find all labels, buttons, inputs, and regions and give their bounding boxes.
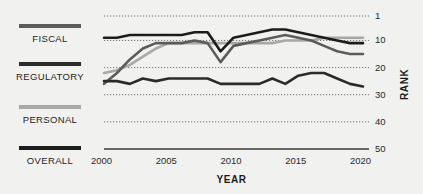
- y-tick-label-1: 1: [375, 10, 380, 21]
- legend-label-regulatory: REGULATORY: [0, 71, 100, 82]
- chart-figure: FISCAL REGULATORY PERSONAL OVERALL 1 10 …: [0, 0, 423, 194]
- x-tick-label-2000: 2000: [91, 155, 112, 166]
- y-tick-label-10: 10: [375, 34, 386, 45]
- legend-item-personal: PERSONAL: [0, 105, 100, 125]
- y-tick-label-40: 40: [375, 116, 386, 127]
- x-axis-title: YEAR: [217, 174, 247, 185]
- legend-swatch-overall: [19, 146, 81, 150]
- legend-swatch-personal: [19, 105, 81, 109]
- x-tick-label-2010: 2010: [221, 155, 242, 166]
- y-axis-title: RANK: [399, 68, 410, 99]
- series-line-regulatory: [104, 73, 363, 87]
- legend-swatch-regulatory: [19, 62, 81, 66]
- legend-item-overall: OVERALL: [0, 146, 100, 166]
- legend-label-fiscal: FISCAL: [0, 33, 100, 44]
- x-tick-label-2020: 2020: [350, 155, 371, 166]
- legend-label-personal: PERSONAL: [0, 114, 100, 125]
- y-tick-label-50: 50: [375, 143, 386, 154]
- legend-label-overall: OVERALL: [0, 155, 100, 166]
- y-tick-label-30: 30: [375, 89, 386, 100]
- legend-item-fiscal: FISCAL: [0, 24, 100, 44]
- legend-item-regulatory: REGULATORY: [0, 62, 100, 82]
- x-tick-label-2005: 2005: [156, 155, 177, 166]
- x-tick-label-2015: 2015: [285, 155, 306, 166]
- legend-swatch-fiscal: [19, 24, 81, 28]
- y-tick-label-20: 20: [375, 62, 386, 73]
